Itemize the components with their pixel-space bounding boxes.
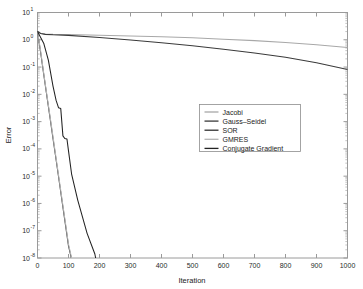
y-tick-exponent: -2 — [31, 88, 36, 94]
y-axis-label: Error — [4, 126, 13, 143]
legend-label-conjugate-gradient: Conjugate Gradient — [223, 145, 284, 153]
y-tick-label: 10 — [22, 9, 30, 16]
legend-label-gmres: GMRES — [223, 136, 249, 143]
y-tick-label: 10 — [22, 36, 30, 43]
y-tick-label: 10 — [22, 255, 30, 262]
convergence-chart-figure: 10110010-110-210-310-410-510-610-710-8 0… — [0, 0, 363, 289]
legend-label-gauss-seidel: Gauss–Seidel — [223, 118, 267, 125]
y-tick-exponent: -5 — [31, 170, 36, 176]
y-tick-label: 10 — [22, 200, 30, 207]
x-tick-label: 500 — [187, 262, 199, 269]
legend-label-sor: SOR — [223, 127, 238, 134]
x-tick-label: 0 — [36, 262, 40, 269]
x-tick-label: 300 — [125, 262, 137, 269]
y-tick-label: 10 — [22, 91, 30, 98]
y-tick-exponent: -6 — [31, 197, 36, 203]
x-tick-label: 800 — [280, 262, 292, 269]
x-tick-label: 400 — [156, 262, 168, 269]
x-tick-label: 600 — [218, 262, 230, 269]
y-tick-label: 10 — [22, 227, 30, 234]
legend-label-jacobi: Jacobi — [223, 109, 244, 116]
x-tick-label: 1000 — [340, 262, 356, 269]
y-tick-exponent: -4 — [31, 142, 36, 148]
x-tick-label: 200 — [94, 262, 106, 269]
x-tick-label: 100 — [63, 262, 75, 269]
chart-legend[interactable]: JacobiGauss–SeidelSORGMRESConjugate Grad… — [200, 105, 301, 154]
x-axis-label: Iteration — [178, 276, 205, 285]
x-tick-label: 900 — [311, 262, 323, 269]
y-tick-exponent: -7 — [31, 224, 36, 230]
y-tick-label: 10 — [22, 145, 30, 152]
x-tick-label: 700 — [249, 262, 261, 269]
y-tick-exponent: -3 — [31, 115, 36, 121]
plot-canvas: 10110010-110-210-310-410-510-610-710-8 0… — [0, 0, 363, 289]
y-tick-exponent: -8 — [31, 252, 36, 258]
y-tick-label: 10 — [22, 64, 30, 71]
y-tick-exponent: 1 — [31, 6, 34, 12]
y-tick-exponent: 0 — [31, 33, 34, 39]
y-tick-label: 10 — [22, 118, 30, 125]
y-tick-exponent: -1 — [31, 61, 36, 67]
y-tick-label: 10 — [22, 173, 30, 180]
